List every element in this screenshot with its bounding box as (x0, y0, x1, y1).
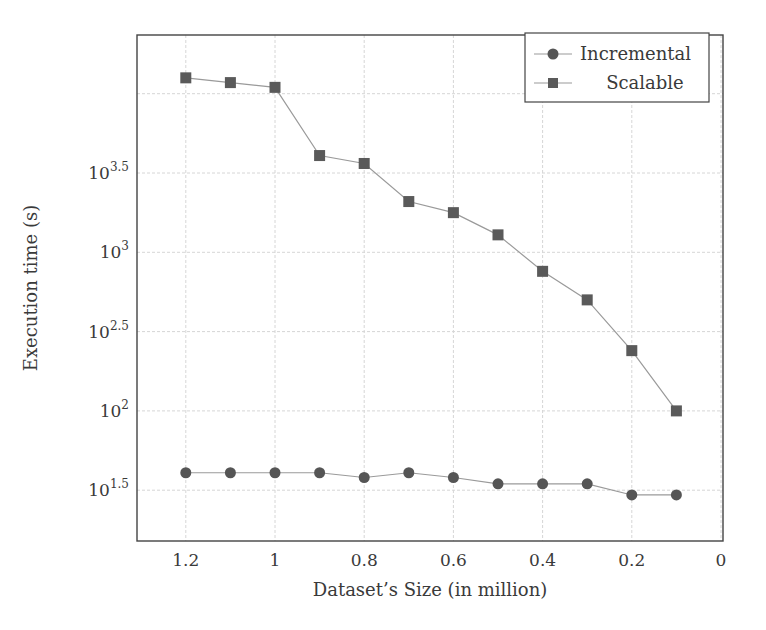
x-axis-ticks: 1.210.80.60.40.20 (172, 550, 726, 570)
series-layer (180, 72, 682, 500)
data-point-square (225, 77, 236, 88)
x-tick-label: 0.2 (618, 550, 645, 570)
data-point-circle (314, 467, 325, 478)
legend-circle-marker-icon (548, 49, 559, 60)
x-tick-label: 0 (716, 550, 727, 570)
data-point-circle (537, 478, 548, 489)
y-tick-label: 102.5 (88, 319, 129, 342)
data-point-square (270, 82, 281, 93)
series-line (186, 78, 677, 411)
data-point-circle (448, 472, 459, 483)
data-point-circle (671, 489, 682, 500)
data-point-square (403, 196, 414, 207)
legend-label-incremental: Incremental (580, 43, 691, 64)
y-tick-label: 101.5 (88, 477, 129, 500)
grid-lines (137, 35, 723, 541)
data-point-square (314, 150, 325, 161)
data-point-square (671, 405, 682, 416)
x-tick-label: 0.4 (529, 550, 556, 570)
data-point-square (359, 158, 370, 169)
y-axis-title: Execution time (s) (20, 205, 41, 371)
legend: Incremental Scalable (525, 33, 709, 102)
series-scalable (180, 72, 682, 416)
data-point-circle (582, 478, 593, 489)
data-point-circle (403, 467, 414, 478)
series-line (186, 473, 677, 495)
y-tick-label: 103 (100, 239, 129, 262)
data-point-circle (626, 489, 637, 500)
data-point-circle (180, 467, 191, 478)
data-point-circle (225, 467, 236, 478)
x-tick-label: 1.2 (172, 550, 199, 570)
x-tick-label: 1 (270, 550, 281, 570)
line-chart: 1.210.80.60.40.20 101.5102102.5103103.5 … (0, 0, 766, 630)
y-tick-label: 102 (100, 398, 129, 421)
x-tick-label: 0.8 (351, 550, 378, 570)
data-point-square (582, 294, 593, 305)
legend-square-marker-icon (548, 78, 558, 88)
data-point-square (493, 229, 504, 240)
data-point-circle (270, 467, 281, 478)
data-point-circle (359, 472, 370, 483)
data-point-square (537, 266, 548, 277)
plot-frame (137, 35, 723, 541)
x-tick-label: 0.6 (440, 550, 467, 570)
data-point-square (448, 207, 459, 218)
x-axis-title: Dataset’s Size (in million) (313, 579, 548, 600)
data-point-circle (493, 478, 504, 489)
data-point-square (180, 72, 191, 83)
series-incremental (180, 467, 682, 500)
y-axis-ticks: 101.5102102.5103103.5 (88, 160, 129, 500)
data-point-square (626, 345, 637, 356)
legend-label-scalable: Scalable (606, 72, 684, 93)
y-tick-label: 103.5 (88, 160, 129, 183)
